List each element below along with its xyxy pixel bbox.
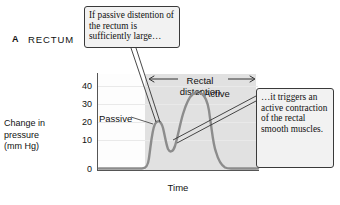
distention-arrow <box>149 76 255 82</box>
passive-leader-line <box>131 117 153 124</box>
callout-top-leader <box>131 48 160 122</box>
callout-passive-distention: If passive distention of the rectum is s… <box>84 6 180 48</box>
figure-panel: A RECTUM 40 30 20 10 0 Change in pressur… <box>0 0 340 205</box>
callout-right-leader <box>173 96 256 143</box>
callout-active-contraction: …it triggers an active contraction of th… <box>256 88 334 168</box>
pressure-curve <box>99 92 258 168</box>
